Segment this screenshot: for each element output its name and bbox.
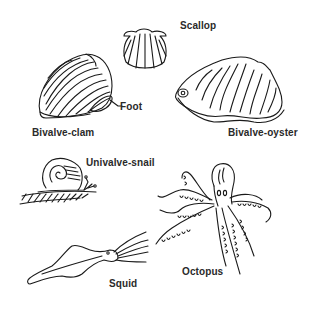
scallop-illustration xyxy=(124,29,166,68)
squid-illustration xyxy=(28,232,148,284)
illustrations xyxy=(0,0,311,309)
label-univalve-snail: Univalve-snail xyxy=(86,157,155,168)
clam-illustration xyxy=(39,54,122,118)
label-bivalve-oyster: Bivalve-oyster xyxy=(228,127,298,138)
label-bivalve-clam: Bivalve-clam xyxy=(32,127,94,138)
snail-illustration xyxy=(20,158,96,204)
label-foot: Foot xyxy=(120,101,142,112)
octopus-illustration xyxy=(156,164,271,274)
mollusk-diagram: Scallop Foot Bivalve-clam Bivalve-oyster… xyxy=(0,0,311,309)
label-squid: Squid xyxy=(109,278,137,289)
label-scallop: Scallop xyxy=(180,20,216,31)
label-octopus: Octopus xyxy=(182,266,223,277)
oyster-illustration xyxy=(175,57,284,122)
